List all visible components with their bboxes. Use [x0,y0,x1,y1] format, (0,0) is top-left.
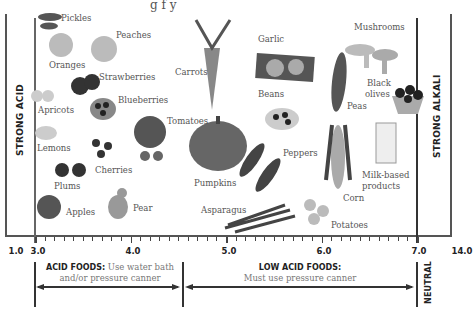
food-label: Potatoes [331,220,368,230]
acid-bracket-right [182,262,184,307]
axis-tick [159,237,160,241]
axis-tick [341,237,342,241]
food-label: Milk-based [362,170,409,180]
food-label: Mushrooms [354,22,405,32]
acid-foods-desc: Use water bath [108,262,174,272]
axis-tick [54,237,55,241]
axis-tick [398,237,399,241]
axis-tick [283,237,284,241]
axis-tick [417,237,419,243]
food-label: Garlic [258,34,284,44]
acid-foods-title: ACID FOODS: [46,263,105,272]
cherries-icon [92,139,112,158]
axis-tick [45,237,46,241]
food-label: Apples [66,207,95,217]
axis-tick [388,237,389,241]
neutral-bracket [416,262,418,307]
tick-label-3: 3.0 [30,246,45,256]
potatoes-icon [304,199,329,225]
pear-icon [108,188,128,219]
beans-icon [265,108,299,130]
axis-tick [169,237,170,241]
tick-label-14: 14.0 [452,246,473,256]
food-label: Peaches [116,30,151,40]
axis-tick [102,237,103,241]
apples-icon [37,195,61,219]
tick-label-7: 7.0 [411,246,426,256]
axis-tick [369,237,370,241]
mushrooms-icon [345,44,398,74]
axis-tick [83,237,84,241]
axis-tick [140,237,141,241]
acid-range-arrow [38,286,178,288]
low-acid-arrowhead-left [185,284,193,290]
blueberries-icon [90,98,116,120]
food-label: Peppers [283,148,318,158]
axis-tick [178,237,179,241]
acid-arrowhead-right [172,284,180,290]
axis-tick [197,237,198,241]
axis-tick [302,237,303,241]
axis-tick [35,237,37,243]
axis-tick [207,237,208,241]
food-label: Carrots [175,67,208,77]
lemons-icon [35,126,57,140]
axis-tick [407,237,408,241]
axis-tick [360,237,361,241]
pickles-icon [38,13,62,30]
axis-tick [245,237,246,241]
low-acid-foods-title: LOW ACID FOODS: [259,263,341,272]
axis-tick [216,237,217,241]
axis-tick [322,237,324,243]
low-acid-range-arrow [188,286,412,288]
axis-tick [312,237,313,241]
tick-label-5: 5.0 [221,246,236,256]
corn-icon [326,125,350,189]
food-label: Oranges [49,60,85,70]
food-label: Cherries [95,165,132,175]
food-label: Pickles [61,13,91,23]
acid-foods-caption: ACID FOODS: Use water bath and/or pressu… [38,262,182,283]
axis-tick [92,237,93,241]
peaches-icon [91,36,117,62]
tick-label-1: 1.0 [8,246,23,256]
low-acid-foods-caption: LOW ACID FOODS: Must use pressure canner [200,262,400,283]
acid-foods-desc2: and/or pressure canner [59,273,160,283]
carrots-icon [196,20,230,110]
food-label: Beans [258,89,284,99]
axis-tick [64,237,65,241]
axis-tick [379,237,380,241]
food-label: Peas [347,101,367,111]
low-acid-arrowhead-right [406,284,414,290]
apricots-icon [31,90,54,102]
food-label: Tomatoes [167,116,208,126]
garlic-icon [255,53,315,82]
food-label: Strawberries [99,72,155,82]
acid-arrowhead-left [36,284,44,290]
food-label: Black [367,78,391,88]
food-label: Plums [54,181,80,191]
food-label: Asparagus [201,205,246,215]
axis-tick [293,237,294,241]
black-olives-icon [392,85,424,114]
axis-tick [264,237,265,241]
axis-tick [274,237,275,241]
axis-tick [236,237,237,241]
axis-tick [111,237,112,241]
milk-based-products-icon [376,123,396,163]
food-label: Corn [343,193,364,203]
food-label: products [362,181,400,191]
axis-tick [131,237,133,243]
tomatoes-icon [134,116,166,161]
low-acid-foods-desc: Must use pressure canner [244,273,357,283]
tick-label-4: 4.0 [125,246,140,256]
axis-tick [73,237,74,241]
plums-icon [55,163,86,177]
food-label: Pumpkins [194,178,236,188]
food-label: Lemons [37,143,71,153]
axis-tick [121,237,122,241]
strawberries-icon [71,74,100,95]
axis-tick [150,237,151,241]
food-label: Pear [133,203,153,213]
axis-tick [255,237,256,241]
